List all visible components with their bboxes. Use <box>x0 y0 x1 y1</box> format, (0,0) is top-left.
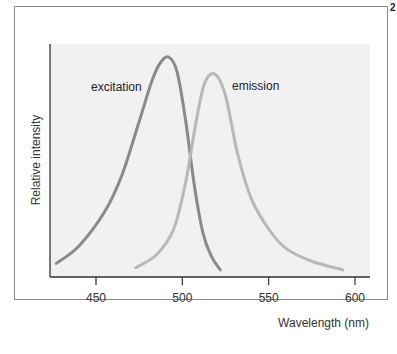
x-tick-label: 550 <box>259 291 279 305</box>
y-axis-label: Relative intensity <box>29 115 43 206</box>
x-axis-label: Wavelength (nm) <box>278 316 369 330</box>
x-tick-label: 450 <box>86 291 106 305</box>
emission-label: emission <box>232 79 279 93</box>
x-ticks: 450500550600 <box>86 277 365 305</box>
excitation-label: excitation <box>91 80 142 94</box>
x-tick-label: 500 <box>172 291 192 305</box>
spectrum-chart: 450500550600 Relative intensity Waveleng… <box>0 0 397 354</box>
plot-area <box>50 44 370 277</box>
x-tick-label: 600 <box>345 291 365 305</box>
